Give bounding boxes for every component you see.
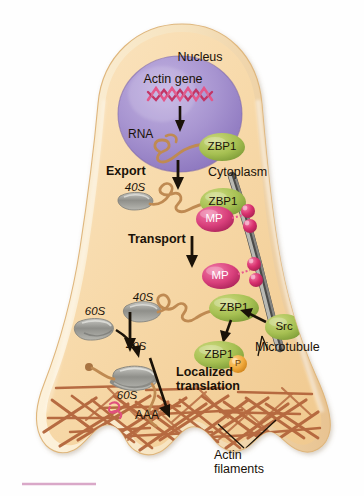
actin-filaments-line2: filaments <box>214 462 264 476</box>
localized-translation-line2: translation <box>176 379 240 393</box>
transport-step-label: Transport <box>128 232 186 246</box>
subunit-40s-bottom-label: 40S <box>126 340 146 352</box>
actin-filaments-label: Actin filaments <box>214 448 264 476</box>
microtubule-label: Microtubule <box>255 340 320 354</box>
zbp1-export-label: ZBP1 <box>209 195 238 207</box>
actin-filaments-line1: Actin <box>214 448 264 462</box>
zbp1-nucleus-label: ZBP1 <box>208 140 237 152</box>
polya-tail-label: AAA <box>135 408 159 422</box>
rna-label: RNA <box>128 127 153 141</box>
export-step-label: Export <box>106 164 146 178</box>
zbp1-phospho-label: ZBP1 <box>205 348 234 360</box>
src-kinase-label: Src <box>275 320 292 332</box>
motor-protein-lower-label: MP <box>211 269 228 281</box>
localized-translation-step-label: Localized translation <box>176 365 240 393</box>
subunit-40s-mid-label: 40S <box>133 291 153 303</box>
subunit-40s-top-label: 40S <box>125 181 145 193</box>
motor-protein-upper-label: MP <box>205 212 222 224</box>
translating-ribosome-icon <box>112 366 157 390</box>
subunit-60s-mid-label: 60S <box>85 305 105 317</box>
cytoplasm-label: Cytoplasm <box>208 165 267 179</box>
zbp1-free-label: ZBP1 <box>220 301 249 313</box>
figure-canvas: Nucleus Actin gene RNA ZBP1 Export 40S C… <box>0 0 364 496</box>
subunit-60s-bottom-label: 60S <box>117 389 137 401</box>
nucleus-label: Nucleus <box>177 50 222 64</box>
ribosome-40s-top-icon <box>118 192 153 210</box>
localized-translation-line1: Localized <box>176 365 240 379</box>
actin-gene-label: Actin gene <box>143 72 202 86</box>
